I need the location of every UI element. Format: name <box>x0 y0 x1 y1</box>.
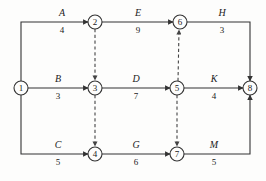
activity-D-name: D <box>131 73 140 84</box>
activity-E-duration: 9 <box>136 25 141 35</box>
activity-D-duration: 7 <box>134 91 139 101</box>
activity-C-name: C <box>55 139 62 150</box>
node-2-label: 2 <box>93 17 98 27</box>
node-5-label: 5 <box>175 83 180 93</box>
node-3-label: 3 <box>93 83 98 93</box>
dummy-edge-5-to-6 <box>178 30 179 81</box>
activity-C-duration: 5 <box>56 157 61 167</box>
node-6-label: 6 <box>178 17 183 27</box>
edge-H-6-to-8 <box>187 22 250 81</box>
activity-labels-group: A 4 E 9 H 3 B 3 D 7 K 4 C 5 G 6 M 5 <box>55 7 227 167</box>
activity-G-duration: 6 <box>134 157 139 167</box>
activity-G-name: G <box>132 139 139 150</box>
activity-H-duration: 3 <box>220 25 225 35</box>
network-diagram-page: 1 2 3 4 5 6 7 8 A 4 E 9 H 3 B 3 D <box>0 0 266 181</box>
activity-B-duration: 3 <box>56 91 61 101</box>
network-diagram-canvas: 1 2 3 4 5 6 7 8 A 4 E 9 H 3 B 3 D <box>0 0 266 181</box>
node-7-label: 7 <box>175 149 180 159</box>
node-4-label: 4 <box>93 149 98 159</box>
activity-M-name: M <box>209 139 219 150</box>
node-1-label: 1 <box>19 83 24 93</box>
activity-K-duration: 4 <box>212 91 217 101</box>
node-8-label: 8 <box>248 83 253 93</box>
activity-B-name: B <box>55 73 61 84</box>
activity-E-name: E <box>134 7 141 18</box>
solid-edges-group <box>21 22 250 154</box>
activity-H-name: H <box>217 7 226 18</box>
activity-M-duration: 5 <box>212 157 217 167</box>
activity-A-name: A <box>58 7 66 18</box>
activity-K-name: K <box>210 73 219 84</box>
activity-A-duration: 4 <box>60 25 65 35</box>
